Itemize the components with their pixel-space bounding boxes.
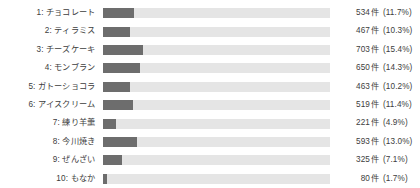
- bar-fill: [103, 155, 122, 165]
- value-unit: 件: [370, 119, 379, 127]
- value-cell: 650件(14.3%): [330, 64, 420, 72]
- value-count: 463: [336, 83, 370, 91]
- bar-track-cell: [95, 63, 330, 73]
- value-cell: 463件(10.2%): [330, 83, 420, 91]
- bar-track-cell: [95, 45, 330, 55]
- chart-row: 6: アイスクリーム519件(11.4%): [0, 96, 420, 114]
- category-label: 7: 練り羊羹: [0, 119, 95, 127]
- bar-track-cell: [95, 82, 330, 92]
- value-unit: 件: [370, 64, 379, 72]
- value-cell: 467件(10.3%): [330, 27, 420, 35]
- bar-track-cell: [95, 27, 330, 37]
- value-unit: 件: [370, 27, 379, 35]
- category-label: 3: チーズケーキ: [0, 46, 95, 54]
- value-count: 650: [336, 64, 370, 72]
- bar-track-cell: [95, 155, 330, 165]
- value-percent: (13.0%): [379, 138, 412, 146]
- bar-fill: [103, 8, 134, 18]
- bar-track-cell: [95, 100, 330, 110]
- bar-track: [103, 174, 330, 184]
- bar-fill: [103, 27, 130, 37]
- value-percent: (14.3%): [379, 64, 412, 72]
- value-unit: 件: [370, 156, 379, 164]
- value-cell: 534件(11.7%): [330, 9, 420, 17]
- bar-track: [103, 100, 330, 110]
- value-unit: 件: [370, 138, 379, 146]
- horizontal-bar-chart: 1: チョコレート534件(11.7%)2: ティラミス467件(10.3%)3…: [0, 0, 420, 188]
- bar-track: [103, 137, 330, 147]
- value-count: 593: [336, 138, 370, 146]
- category-label: 6: アイスクリーム: [0, 101, 95, 109]
- value-unit: 件: [370, 83, 379, 91]
- chart-row: 3: チーズケーキ703件(15.4%): [0, 41, 420, 59]
- value-count: 519: [336, 101, 370, 109]
- value-unit: 件: [370, 175, 379, 183]
- bar-track: [103, 155, 330, 165]
- chart-row: 10: もなか80件(1.7%): [0, 170, 420, 188]
- value-count: 80: [336, 175, 370, 183]
- bar-track-cell: [95, 8, 330, 18]
- chart-row: 2: ティラミス467件(10.3%): [0, 22, 420, 40]
- bar-fill: [103, 45, 143, 55]
- value-cell: 703件(15.4%): [330, 46, 420, 54]
- value-count: 534: [336, 9, 370, 17]
- bar-track: [103, 82, 330, 92]
- chart-row: 9: ぜんざい325件(7.1%): [0, 151, 420, 169]
- bar-fill: [103, 119, 116, 129]
- value-count: 467: [336, 27, 370, 35]
- bar-track-cell: [95, 174, 330, 184]
- chart-row: 8: 今川焼き593件(13.0%): [0, 133, 420, 151]
- bar-fill: [103, 137, 137, 147]
- value-cell: 325件(7.1%): [330, 156, 420, 164]
- value-percent: (4.9%): [379, 119, 408, 127]
- value-count: 325: [336, 156, 370, 164]
- category-label: 10: もなか: [0, 175, 95, 183]
- bar-track: [103, 45, 330, 55]
- value-percent: (11.4%): [379, 101, 412, 109]
- category-label: 5: ガトーショコラ: [0, 83, 95, 91]
- bar-track: [103, 119, 330, 129]
- category-label: 2: ティラミス: [0, 27, 95, 35]
- value-count: 703: [336, 46, 370, 54]
- value-percent: (15.4%): [379, 46, 412, 54]
- bar-track: [103, 63, 330, 73]
- chart-row: 1: チョコレート534件(11.7%): [0, 4, 420, 22]
- value-cell: 593件(13.0%): [330, 138, 420, 146]
- bar-track: [103, 27, 330, 37]
- value-percent: (11.7%): [379, 9, 412, 17]
- bar-fill: [103, 63, 140, 73]
- value-unit: 件: [370, 9, 379, 17]
- bar-fill: [103, 100, 133, 110]
- category-label: 4: モンブラン: [0, 64, 95, 72]
- bar-track-cell: [95, 137, 330, 147]
- chart-row: 7: 練り羊羹221件(4.9%): [0, 114, 420, 132]
- chart-row: 5: ガトーショコラ463件(10.2%): [0, 78, 420, 96]
- value-percent: (10.2%): [379, 83, 412, 91]
- chart-row: 4: モンブラン650件(14.3%): [0, 59, 420, 77]
- value-percent: (7.1%): [379, 156, 408, 164]
- value-percent: (10.3%): [379, 27, 412, 35]
- value-cell: 519件(11.4%): [330, 101, 420, 109]
- value-percent: (1.7%): [379, 175, 408, 183]
- category-label: 9: ぜんざい: [0, 156, 95, 164]
- bar-track: [103, 8, 330, 18]
- bar-fill: [103, 82, 130, 92]
- value-unit: 件: [370, 101, 379, 109]
- bar-fill: [103, 174, 107, 184]
- value-cell: 80件(1.7%): [330, 175, 420, 183]
- bar-track-cell: [95, 119, 330, 129]
- value-count: 221: [336, 119, 370, 127]
- value-cell: 221件(4.9%): [330, 119, 420, 127]
- category-label: 8: 今川焼き: [0, 138, 95, 146]
- value-unit: 件: [370, 46, 379, 54]
- category-label: 1: チョコレート: [0, 9, 95, 17]
